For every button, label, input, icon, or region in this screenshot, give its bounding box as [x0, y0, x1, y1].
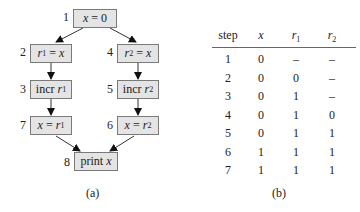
node-incr-r1: incr r1	[30, 80, 72, 99]
node-x-equals-r2: x = r2	[117, 116, 159, 135]
table-row: 4010	[212, 106, 356, 125]
header-r1: r1	[278, 28, 314, 43]
table-row: 6111	[212, 143, 356, 162]
node-r2-equals-x: r2 = x	[117, 44, 159, 63]
table-row: 301–	[212, 88, 356, 107]
table-row: 7111	[212, 162, 356, 181]
table-row: 5011	[212, 125, 356, 144]
node-number: 1	[57, 10, 69, 25]
node-x-equals-0: x = 0	[73, 9, 117, 28]
node-number: 4	[101, 45, 113, 60]
caption-b: (b)	[272, 186, 286, 201]
table-row: 200–	[212, 69, 356, 88]
header-step: step	[212, 28, 244, 43]
table-row: 10––	[212, 51, 356, 70]
node-number: 3	[14, 82, 26, 97]
node-number: 2	[14, 45, 26, 60]
header-x: x	[244, 28, 278, 43]
node-print-x: print x	[74, 152, 118, 171]
header-r2: r2	[314, 28, 350, 43]
node-number: 8	[58, 155, 70, 170]
node-r1-equals-x: r1 = x	[30, 44, 72, 63]
header-rule	[212, 47, 356, 48]
node-incr-r2: incr r2	[117, 80, 159, 99]
node-x-equals-r1: x = r1	[30, 116, 72, 135]
node-number: 5	[101, 82, 113, 97]
node-number: 6	[101, 118, 113, 133]
table-header: step x r1 r2	[212, 26, 356, 45]
node-number: 7	[14, 118, 26, 133]
state-table: step x r1 r2 10–– 200– 301– 4010 5011 61…	[212, 26, 356, 180]
caption-a: (a)	[86, 186, 99, 201]
